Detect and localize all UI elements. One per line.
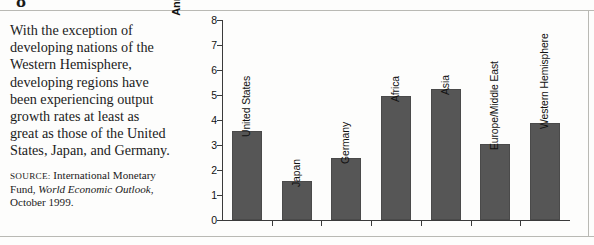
y-tick <box>217 20 222 21</box>
y-tick-label: 0 <box>195 214 217 226</box>
x-tick <box>520 221 521 226</box>
caption-text: With the exception of developing nations… <box>10 22 170 160</box>
y-tick-label: 3 <box>195 139 217 151</box>
bar-label: Europe/Middle East <box>489 61 500 150</box>
x-tick <box>371 221 372 226</box>
bar <box>480 144 510 220</box>
source-note: SOURCE: International Monetary Fund, Wor… <box>10 169 170 210</box>
bar <box>381 96 411 220</box>
y-tick-label: 1 <box>195 189 217 201</box>
y-tick <box>217 195 222 196</box>
y-axis-line <box>222 20 223 221</box>
y-tick-label: 6 <box>195 64 217 76</box>
figure-page: 8 With the exception of developing natio… <box>0 0 594 245</box>
bar <box>232 131 262 220</box>
y-tick <box>217 145 222 146</box>
x-tick <box>471 221 472 226</box>
x-tick <box>421 221 422 226</box>
bar <box>331 158 361 221</box>
y-tick <box>217 170 222 171</box>
x-tick <box>272 221 273 226</box>
bar <box>431 89 461 220</box>
y-tick <box>217 45 222 46</box>
y-tick-label: 4 <box>195 114 217 126</box>
source-label: SOURCE: <box>10 171 51 181</box>
source-publication: World Economic Outlook <box>38 183 150 195</box>
bar-label: Japan <box>291 159 302 187</box>
bottom-divider <box>0 236 594 237</box>
bar-chart: Annual growth rate (percent) 012345678 U… <box>176 14 580 229</box>
bar-label: Africa <box>390 76 401 102</box>
bar-label: Asia <box>440 75 451 95</box>
bar <box>282 181 312 220</box>
bar-label: United States <box>241 76 252 137</box>
y-tick-label: 2 <box>195 164 217 176</box>
bar-label: Western Hemisphere <box>539 33 550 129</box>
x-tick <box>321 221 322 226</box>
plot-area: 012345678 United StatesJapanGermanyAfric… <box>222 20 570 221</box>
y-tick-label: 7 <box>195 39 217 51</box>
y-tick-label: 5 <box>195 89 217 101</box>
y-tick <box>217 120 222 121</box>
top-divider <box>0 10 594 11</box>
y-tick <box>217 220 222 221</box>
bar <box>530 123 560 221</box>
caption-block: With the exception of developing nations… <box>10 22 170 210</box>
y-tick <box>217 95 222 96</box>
y-tick <box>217 70 222 71</box>
bar-label: Germany <box>340 121 351 163</box>
right-border <box>588 10 589 237</box>
x-axis-line <box>222 220 570 221</box>
y-axis-title: Annual growth rate (percent) <box>170 0 184 42</box>
y-tick-label: 8 <box>195 14 217 26</box>
